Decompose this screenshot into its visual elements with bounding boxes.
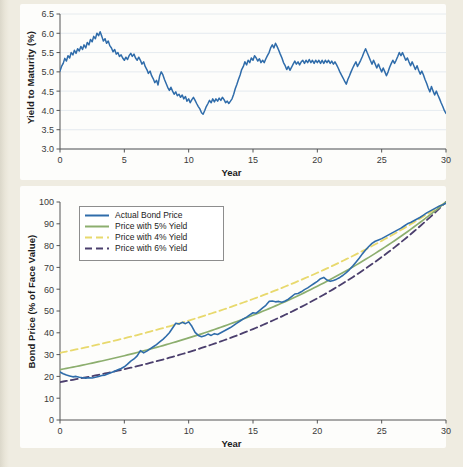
x-tick-label: 25	[377, 426, 387, 436]
y-tick-label: 4.5	[41, 87, 54, 97]
yield-to-maturity-chart: Yield to Maturity (%) Year 3.03.54.04.55…	[0, 0, 463, 182]
x-tick-label: 15	[248, 155, 258, 165]
x-tick-label: 0	[57, 426, 62, 436]
y-tick-label: 3.5	[41, 125, 54, 135]
y-tick-label: 5.0	[41, 67, 54, 77]
x-tick-label: 10	[184, 155, 194, 165]
top-chart-y-axis-title: Yield to Maturity (%)	[25, 23, 36, 133]
y-tick-label: 3.0	[41, 144, 54, 154]
x-tick-label: 5	[122, 155, 127, 165]
y-tick-label: 0	[49, 415, 54, 425]
y-tick-label: 30	[44, 350, 54, 360]
legend-label: Price with 4% Yield	[115, 232, 187, 243]
bond-price-chart: Bond Price (% of Face Value) Year 010203…	[0, 186, 463, 467]
x-tick-label: 20	[312, 155, 322, 165]
y-tick-label: 60	[44, 285, 54, 295]
y-tick-label: 20	[44, 372, 54, 382]
y-tick-label: 4.0	[41, 106, 54, 116]
y-tick-label: 100	[39, 197, 54, 207]
series-line	[60, 32, 446, 115]
y-tick-label: 6.5	[41, 9, 54, 19]
y-tick-label: 80	[44, 241, 54, 251]
legend-label: Price with 6% Yield	[115, 243, 187, 254]
legend-item: Price with 4% Yield	[84, 232, 218, 243]
x-tick-label: 30	[441, 426, 451, 436]
y-tick-label: 5.5	[41, 48, 54, 58]
legend-swatch	[84, 243, 110, 254]
legend-swatch	[84, 210, 110, 221]
x-tick-label: 20	[312, 426, 322, 436]
y-tick-label: 40	[44, 328, 54, 338]
legend-label: Price with 5% Yield	[115, 221, 187, 232]
bottom-chart-plot: 0102030405060708090100051015202530	[0, 186, 463, 467]
x-tick-label: 0	[57, 155, 62, 165]
top-chart-x-axis-title: Year	[0, 167, 463, 178]
legend-item: Price with 5% Yield	[84, 221, 218, 232]
x-tick-label: 5	[122, 426, 127, 436]
legend-label: Actual Bond Price	[115, 210, 183, 221]
y-tick-label: 90	[44, 219, 54, 229]
y-tick-label: 6.0	[41, 29, 54, 39]
y-tick-label: 70	[44, 263, 54, 273]
figure-page: Yield to Maturity (%) Year 3.03.54.04.55…	[0, 0, 463, 467]
y-tick-label: 10	[44, 394, 54, 404]
legend-swatch	[84, 221, 110, 232]
x-tick-label: 15	[248, 426, 258, 436]
bottom-chart-x-axis-title: Year	[0, 438, 463, 449]
bottom-chart-y-axis-title: Bond Price (% of Face Value)	[26, 217, 37, 387]
top-chart-plot: 3.03.54.04.55.05.56.06.5051015202530	[0, 0, 463, 182]
x-tick-label: 25	[377, 155, 387, 165]
legend-item: Actual Bond Price	[84, 210, 218, 221]
legend-swatch	[84, 232, 110, 243]
legend-item: Price with 6% Yield	[84, 243, 218, 254]
x-tick-label: 30	[441, 155, 451, 165]
x-tick-label: 10	[184, 426, 194, 436]
y-tick-label: 50	[44, 306, 54, 316]
bond-price-legend: Actual Bond PricePrice with 5% YieldPric…	[79, 206, 224, 261]
